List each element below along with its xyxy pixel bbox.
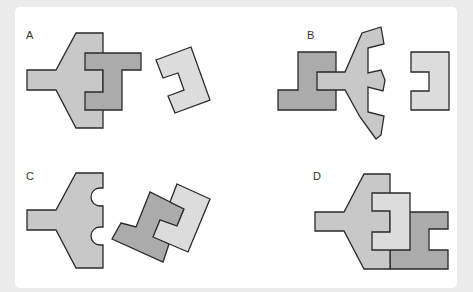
panel-b-plane-piece xyxy=(317,27,385,139)
panel-c-plane-piece xyxy=(27,173,103,268)
panel-a xyxy=(27,33,210,128)
puzzle-figure xyxy=(0,0,473,292)
panel-c xyxy=(27,173,210,268)
panel-d-plane-piece xyxy=(315,174,390,269)
panel-b xyxy=(278,27,449,139)
panel-a-light-piece xyxy=(156,47,210,113)
panel-d xyxy=(315,174,448,269)
panel-a-plane-piece xyxy=(27,33,103,128)
panel-b-light-piece xyxy=(411,52,449,110)
